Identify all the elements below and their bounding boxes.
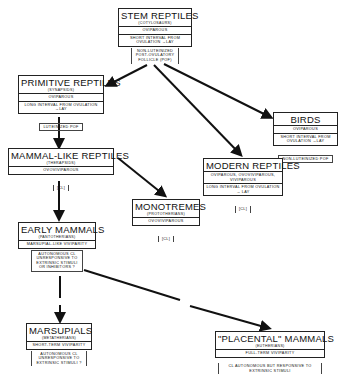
node-row: LONG INTERVAL FROM OVULATION → LAY <box>204 183 282 195</box>
node-early-mammals: EARLY MAMMALS (PANTOTHERIANS) MARSUPIAL-… <box>18 222 96 272</box>
node-marsupials: MARSUPIALS (METATHERIANS) SHORT-TERM VIV… <box>26 323 92 368</box>
node-title: STEM REPTILES <box>119 9 191 21</box>
node-row: OVIPAROUS, OVOVIVIPAROUS, VIVIPAROUS <box>204 171 282 183</box>
node-title: MONOTREMES <box>133 200 199 212</box>
node-title: PRIMITIVE REPTILES <box>19 76 103 88</box>
node-monotremes: MONOTREMES (PROTOTHERIANS) OVOVIVIPAROUS… <box>132 199 200 244</box>
node-note: AUTONOMOUS CL UNRESPONSIVE TO EXTRINSIC … <box>31 250 83 272</box>
node-row: SHORT INTERVAL FROM OVULATION →LAY <box>119 34 191 46</box>
node-subtitle: (METATHERIANS) <box>27 336 91 341</box>
evolution-diagram: STEM REPTILES (COTYLOSAURS) OVIPAROUS SH… <box>0 0 341 378</box>
node-mammal-like-reptiles: MAMMAL-LIKE REPTILES (THERAPSIDS) OVOVIV… <box>8 148 114 193</box>
node-title: MODERN REPTILES <box>204 159 282 171</box>
edge-mammallike-monotremes <box>118 158 164 195</box>
node-note: CL AUTONOMOUS BUT RESPONSIVE TO EXTRINSI… <box>218 363 322 374</box>
node-note: NON-LUTEINIZED POST-OVULATORY FOLLICLE (… <box>131 48 179 64</box>
node-stem-reptiles: STEM REPTILES (COTYLOSAURS) OVIPAROUS SH… <box>118 8 192 65</box>
node-row: SHORT-TERM VIVIPARITY <box>26 342 92 350</box>
node-birds: BIRDS OVIPAROUS SHORT INTERVAL FROM OVUL… <box>273 112 338 164</box>
node-title: BIRDS <box>274 113 337 125</box>
node-row: FULL-TERM VIVIPARITY <box>216 349 324 357</box>
node-primitive-reptiles: PRIMITIVE REPTILES (SYNAPSIDS) OVIPAROUS… <box>18 75 104 132</box>
node-row: MARSUPIAL-LIKE VIVIPARITY <box>19 240 95 248</box>
node-title: "PLACENTAL" MAMMALS <box>216 332 324 344</box>
node-row: OVOVIVIPAROUS <box>9 166 113 174</box>
node-title: EARLY MAMMALS <box>19 223 95 235</box>
node-row: OVIPAROUS <box>119 26 191 34</box>
node-placental-mammals: "PLACENTAL" MAMMALS (EUTHERIANS) FULL-TE… <box>215 331 325 376</box>
node-title: MAMMAL-LIKE REPTILES <box>9 149 113 161</box>
node-row: OVIPAROUS <box>19 93 103 101</box>
node-row: SHORT INTERVAL FROM OVULATION →LAY <box>274 133 337 145</box>
node-row: LONG INTERVAL FROM OVULATION →LAY <box>19 101 103 113</box>
node-note: [CL] <box>158 236 174 243</box>
node-title: MARSUPIALS <box>27 324 91 336</box>
node-modern-reptiles: MODERN REPTILES OVIPAROUS, OVOVIVIPAROUS… <box>203 158 283 214</box>
node-note: [CL] <box>235 206 251 213</box>
edge-stem-modern <box>154 65 240 154</box>
node-note: [CL] <box>53 185 69 192</box>
node-note: AUTONOMOUS CL UNRESPONSIVE TO EXTRINSIC … <box>31 351 87 367</box>
edge-early-placental-a <box>84 270 180 300</box>
node-note: LUTEINIZED POF <box>39 123 82 132</box>
node-row: OVOVIVIPAROUS <box>133 217 199 225</box>
node-row: OVIPAROUS <box>274 125 337 133</box>
edge-early-placental-b <box>190 306 268 328</box>
